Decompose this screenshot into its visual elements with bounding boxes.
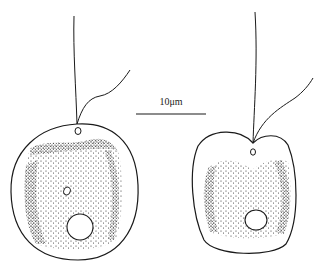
- figure: 10μm: [0, 0, 323, 272]
- flagellum: [74, 16, 77, 124]
- cell-drawing: [0, 0, 323, 272]
- stigma: [75, 128, 81, 135]
- vacuole: [67, 214, 93, 240]
- flagellum: [253, 78, 313, 143]
- stigma: [251, 149, 256, 155]
- flagellum: [253, 12, 256, 143]
- flagellum: [77, 70, 130, 124]
- vacuole: [245, 210, 267, 230]
- cell-right: [192, 12, 313, 253]
- cell-left: [11, 16, 138, 260]
- scale-bar-label: 10μm: [148, 96, 194, 107]
